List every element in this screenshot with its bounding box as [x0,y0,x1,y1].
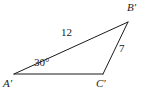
vertex-label-a-prime: A′ [3,78,12,89]
vertex-label-b-prime: B′ [127,2,136,13]
vertex-label-c-prime: C′ [96,78,106,89]
side-length-label-ab: 12 [61,27,72,38]
triangle-outline-svg [0,0,149,97]
angle-measure-label-a: 30° [34,57,49,68]
side-length-label-bc: 7 [119,43,125,54]
triangle-figure: A′ B′ C′ 12 7 30° [0,0,149,97]
